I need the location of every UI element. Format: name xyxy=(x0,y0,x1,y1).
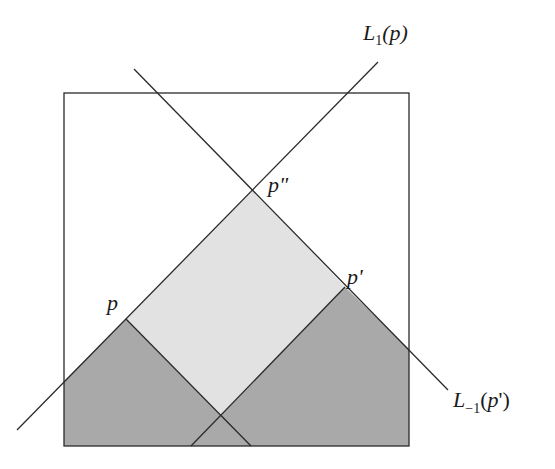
label-L1-p: L1(p) xyxy=(362,20,408,48)
label-Lm1-sub: −1 xyxy=(465,401,480,416)
label-p-double-prime: p" xyxy=(266,172,289,197)
label-p: p xyxy=(105,290,118,315)
label-Lm1-main: L xyxy=(452,387,465,412)
label-L1-sub: 1 xyxy=(375,33,382,48)
label-L1-arg: (p) xyxy=(382,20,408,45)
label-Lm1-p: p xyxy=(485,387,498,412)
label-p-prime: p' xyxy=(345,264,363,289)
diagram-canvas: L1(p) L−1(p') p p' p" xyxy=(0,0,555,469)
label-Lminus1-pprime: L−1(p') xyxy=(452,387,510,416)
label-Lm1-open: ( xyxy=(480,387,487,412)
label-L1-main: L xyxy=(362,20,375,45)
label-Lm1-close: ') xyxy=(498,387,509,412)
